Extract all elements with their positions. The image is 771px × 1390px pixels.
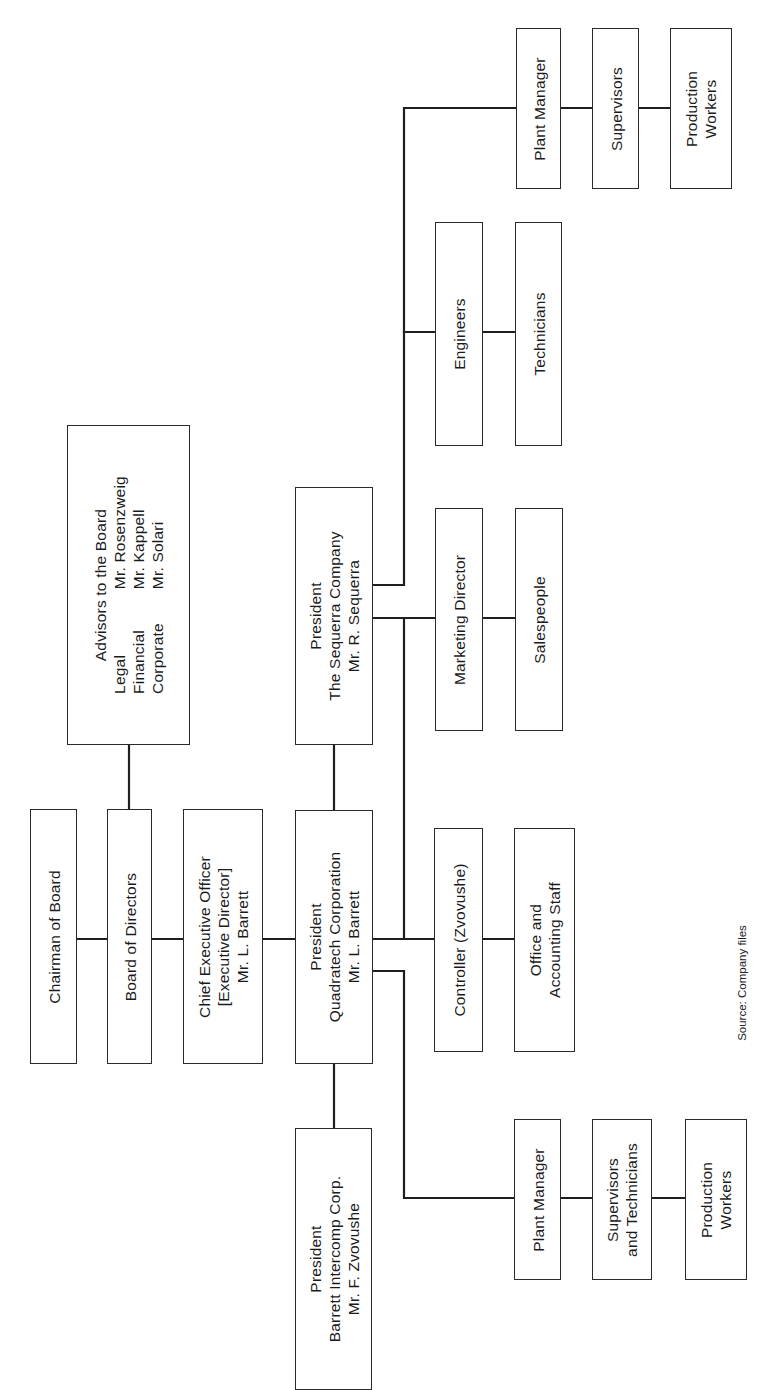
quadratech-plant-manager-box: Plant Manager — [514, 1119, 561, 1280]
line-1: Production — [697, 1161, 716, 1237]
role: President — [305, 1176, 324, 1343]
line-2: Accounting Staff — [545, 882, 564, 998]
title: Plant Manager — [528, 1148, 547, 1251]
person: Mr. L. Barrett — [344, 852, 363, 1023]
company: Quadratech Corporation — [325, 852, 344, 1023]
quadratech-production-workers-label: Production Workers — [697, 1161, 735, 1237]
advisor-name: Mr. Solari — [148, 476, 167, 589]
sequerra-plant-manager-box: Plant Manager — [516, 28, 561, 189]
controller-label: Controller (Zvovushe) — [449, 863, 468, 1016]
person: Mr. R. Sequerra — [344, 531, 363, 700]
line-2: Workers — [716, 1161, 735, 1237]
sequerra-supervisors-box: Supervisors — [592, 28, 639, 189]
quadratech-plant-manager-label: Plant Manager — [528, 1148, 547, 1251]
title: Marketing Director — [450, 554, 469, 684]
role: President — [306, 531, 325, 700]
advisors-box: Advisors to the Board Legal Mr. Rosenzwe… — [67, 425, 190, 745]
marketing-director-box: Marketing Director — [435, 508, 483, 731]
source-note: Source: Company files — [736, 925, 748, 1041]
person: Mr. F. Zvovushe — [343, 1176, 362, 1343]
quadratech-production-workers-box: Production Workers — [685, 1119, 747, 1280]
ceo-name: Mr. L. Barrett — [233, 856, 252, 1018]
president-quadratech-label: President Quadratech Corporation Mr. L. … — [306, 852, 363, 1023]
salespeople-box: Salespeople — [515, 508, 563, 731]
sequerra-supervisors-label: Supervisors — [606, 66, 625, 150]
board-title: Board of Directors — [120, 872, 139, 1001]
board-box: Board of Directors — [107, 809, 152, 1064]
advisor-area: Legal — [110, 623, 129, 694]
president-barrett-box: President Barrett Intercomp Corp. Mr. F.… — [295, 1128, 372, 1390]
advisor-area: Financial — [129, 623, 148, 694]
chairman-label: Chairman of Board — [44, 870, 63, 1004]
president-sequerra-label: President The Sequerra Company Mr. R. Se… — [306, 531, 363, 700]
technicians-label: Technicians — [529, 292, 548, 375]
chairman-title: Chairman of Board — [44, 870, 63, 1004]
line-2: and Technicians — [622, 1143, 641, 1257]
ceo-subtitle: [Executive Director] — [214, 856, 233, 1018]
controller-box: Controller (Zvovushe) — [434, 828, 483, 1052]
ceo-title: Chief Executive Officer — [195, 856, 214, 1018]
line-1: Office and — [526, 882, 545, 998]
sequerra-plant-manager-label: Plant Manager — [529, 57, 548, 160]
title: Plant Manager — [529, 57, 548, 160]
ceo-label: Chief Executive Officer [Executive Direc… — [195, 856, 252, 1018]
sequerra-production-workers-label: Production Workers — [682, 70, 720, 146]
sequerra-production-workers-box: Production Workers — [670, 28, 732, 189]
title: Technicians — [529, 292, 548, 375]
advisors-list: Legal Mr. Rosenzweig Financial Mr. Kappe… — [110, 476, 167, 694]
office-staff-label: Office and Accounting Staff — [526, 882, 564, 998]
role: President — [306, 852, 325, 1023]
company: Barrett Intercomp Corp. — [324, 1176, 343, 1343]
advisor-area: Corporate — [148, 623, 167, 694]
engineers-label: Engineers — [450, 298, 469, 370]
advisors-label: Advisors to the Board Legal Mr. Rosenzwe… — [91, 476, 167, 694]
title: Engineers — [450, 298, 469, 370]
president-barrett-label: President Barrett Intercomp Corp. Mr. F.… — [305, 1176, 362, 1343]
line-1: Supervisors — [603, 1143, 622, 1257]
salespeople-label: Salespeople — [530, 576, 549, 664]
marketing-director-label: Marketing Director — [450, 554, 469, 684]
engineers-box: Engineers — [435, 222, 483, 446]
company: The Sequerra Company — [325, 531, 344, 700]
quadratech-supervisors-label: Supervisors and Technicians — [603, 1143, 641, 1257]
advisor-name: Mr. Rosenzweig — [110, 476, 129, 589]
advisor-name: Mr. Kappell — [129, 476, 148, 589]
line-1: Production — [682, 70, 701, 146]
title: Supervisors — [606, 66, 625, 150]
technicians-box: Technicians — [515, 222, 562, 446]
title: Salespeople — [530, 576, 549, 664]
ceo-box: Chief Executive Officer [Executive Direc… — [183, 809, 263, 1064]
president-quadratech-box: President Quadratech Corporation Mr. L. … — [295, 810, 373, 1064]
controller-title: Controller (Zvovushe) — [449, 863, 468, 1016]
advisors-title: Advisors to the Board — [91, 476, 110, 694]
board-label: Board of Directors — [120, 872, 139, 1001]
line-2: Workers — [701, 70, 720, 146]
chairman-box: Chairman of Board — [30, 809, 77, 1064]
president-sequerra-box: President The Sequerra Company Mr. R. Se… — [295, 487, 373, 745]
quadratech-supervisors-box: Supervisors and Technicians — [592, 1119, 652, 1280]
office-staff-box: Office and Accounting Staff — [514, 828, 575, 1052]
